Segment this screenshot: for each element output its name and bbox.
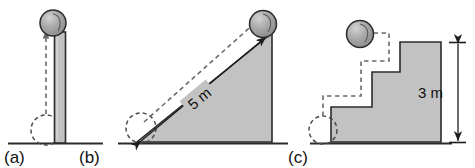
panel-a: (a) [4, 8, 103, 167]
panel-c: 3 m (c) [288, 18, 466, 167]
sphere-body-a [40, 10, 66, 36]
dimension-label-c: 3 m [418, 84, 443, 101]
panel-label-c: (c) [288, 148, 308, 167]
sphere-on-ramp-b [250, 8, 282, 38]
sphere-on-top-step-c [347, 18, 379, 48]
panel-label-a: (a) [4, 148, 25, 167]
panel-b: 5 m (b) [79, 8, 288, 167]
figure-canvas: (a) 5 m (b) [0, 0, 475, 168]
physics-figure-three-panels: (a) 5 m (b) [0, 0, 475, 168]
pillar-body-a [55, 32, 66, 143]
panel-label-b: (b) [79, 148, 100, 167]
